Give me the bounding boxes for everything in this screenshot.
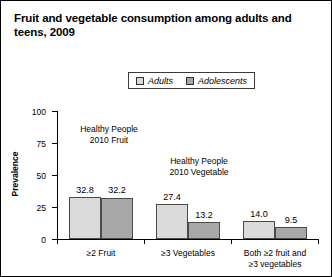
- annotation-healthy-people-fruit: Healthy People 2010 Fruit: [63, 124, 155, 145]
- x-category-label-vegetables: ≥3 Vegetables: [138, 248, 238, 259]
- y-tick-label-100: 100: [6, 107, 46, 117]
- y-tick-50: [52, 175, 57, 176]
- bar-adolescents-both: [275, 227, 307, 239]
- y-tick-25: [52, 207, 57, 208]
- bar-adolescents-fruit: [101, 198, 133, 239]
- y-tick-label-25: 25: [6, 203, 46, 213]
- x-tick-left-edge: [57, 240, 58, 244]
- x-tick-group-1: [144, 240, 145, 244]
- bar-value-adolescents-fruit: 32.2: [101, 185, 133, 195]
- legend-label-adolescents: Adolescents: [198, 76, 247, 86]
- chart-legend: Adults Adolescents: [128, 72, 255, 89]
- bar-adults-vegetables: [156, 204, 188, 239]
- y-tick-label-0: 0: [6, 235, 46, 245]
- bar-value-adults-fruit: 32.8: [69, 185, 101, 195]
- bar-value-adolescents-both: 9.5: [275, 215, 307, 225]
- x-axis-line: [57, 239, 319, 240]
- y-tick-100: [52, 111, 57, 112]
- x-tick-right-edge: [318, 240, 319, 244]
- x-category-label-both: Both ≥2 fruit and ≥3 vegetables: [225, 248, 325, 270]
- bar-value-adults-both: 14.0: [243, 209, 275, 219]
- x-category-label-fruit: ≥2 Fruit: [51, 248, 151, 259]
- annotation-healthy-people-vegetable: Healthy People 2010 Vegetable: [150, 156, 248, 177]
- y-tick-label-75: 75: [6, 139, 46, 149]
- legend-item-adults: Adults: [136, 76, 173, 86]
- legend-label-adults: Adults: [148, 76, 173, 86]
- y-tick-75: [52, 143, 57, 144]
- x-tick-group-2: [231, 240, 232, 244]
- bar-adults-both: [243, 221, 275, 239]
- legend-item-adolescents: Adolescents: [186, 76, 247, 86]
- bar-value-adults-vegetables: 27.4: [156, 192, 188, 202]
- bar-adults-fruit: [69, 197, 101, 239]
- chart-title: Fruit and vegetable consumption among ad…: [14, 11, 304, 39]
- y-axis-line: [57, 111, 58, 240]
- bar-adolescents-vegetables: [188, 222, 220, 239]
- y-tick-label-50: 50: [6, 171, 46, 181]
- legend-swatch-icon: [186, 77, 194, 85]
- chart-figure: Fruit and vegetable consumption among ad…: [0, 0, 332, 277]
- bar-value-adolescents-vegetables: 13.2: [188, 210, 220, 220]
- legend-swatch-icon: [136, 77, 144, 85]
